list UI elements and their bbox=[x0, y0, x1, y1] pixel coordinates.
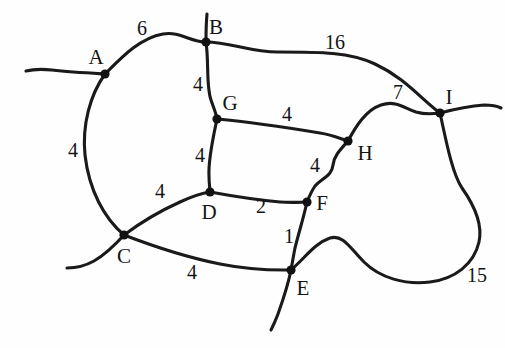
graph-edge-gd bbox=[209, 119, 217, 192]
vertex-label-e: E bbox=[297, 278, 310, 299]
vertex-dot-d bbox=[205, 187, 214, 196]
edge-weight-df: 2 bbox=[256, 196, 266, 216]
vertex-label-a: A bbox=[88, 47, 103, 68]
vertex-label-c: C bbox=[117, 246, 131, 267]
vertex-dot-i bbox=[435, 108, 444, 117]
graph-edge-bi bbox=[206, 42, 440, 113]
vertex-label-i: I bbox=[446, 87, 453, 108]
graph-edge-cd bbox=[124, 192, 210, 235]
vertex-label-b: B bbox=[209, 17, 223, 38]
graph-edges bbox=[84, 33, 480, 282]
vertex-label-d: D bbox=[201, 202, 216, 223]
graph-drawing bbox=[0, 0, 505, 348]
edge-stub bbox=[67, 235, 124, 268]
edge-weight-gh: 4 bbox=[282, 104, 292, 124]
vertex-dot-b bbox=[201, 37, 210, 46]
vertex-label-h: H bbox=[357, 143, 372, 164]
edge-weight-ei: 15 bbox=[467, 265, 487, 285]
vertex-dot-c bbox=[119, 230, 128, 239]
edge-weight-ac: 4 bbox=[68, 140, 78, 160]
vertex-dot-g bbox=[212, 114, 221, 123]
edge-weight-hi: 7 bbox=[393, 82, 403, 102]
edge-weight-bi: 16 bbox=[325, 32, 345, 52]
edge-weight-ce: 4 bbox=[187, 262, 197, 282]
edge-weight-cd: 4 bbox=[155, 181, 165, 201]
edge-weight-hf: 4 bbox=[310, 155, 320, 175]
edge-weight-gd: 4 bbox=[195, 145, 205, 165]
edge-stub bbox=[26, 69, 105, 74]
vertex-dot-e bbox=[286, 265, 295, 274]
edge-weight-ab: 6 bbox=[137, 18, 147, 38]
graph-edge-ce bbox=[124, 235, 291, 270]
graph-edge-bg bbox=[206, 42, 217, 119]
edge-weight-bg: 4 bbox=[193, 74, 203, 94]
vertex-dot-h bbox=[343, 136, 352, 145]
edge-stub bbox=[271, 270, 291, 330]
edge-weight-fe: 1 bbox=[284, 226, 294, 246]
vertex-dot-a bbox=[100, 69, 109, 78]
graph-edge-hi bbox=[348, 103, 440, 141]
vertex-dot-f bbox=[302, 197, 311, 206]
vertex-label-f: F bbox=[316, 193, 328, 214]
graph-edge-ac bbox=[84, 74, 124, 235]
graph-figure: ABCDEFGHI616444744421415 bbox=[0, 0, 505, 348]
vertex-label-g: G bbox=[222, 93, 237, 114]
graph-edge-ab bbox=[105, 33, 206, 74]
